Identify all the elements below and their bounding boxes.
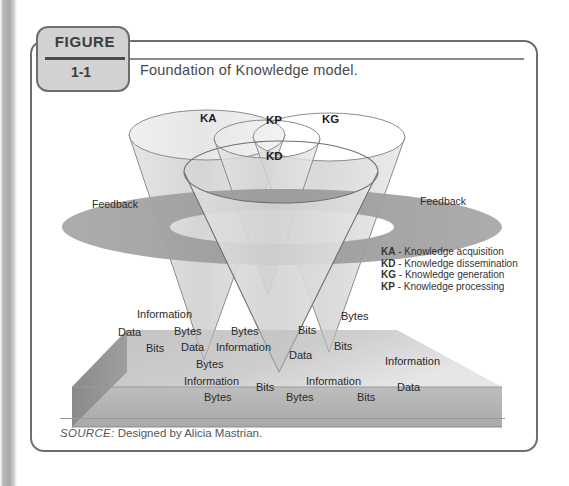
legend-item-separator: -	[395, 246, 404, 257]
legend-item: KD - Knowledge dissemination	[381, 258, 518, 270]
slab-word: Bits	[334, 340, 352, 352]
legend-item-code: KA	[381, 246, 395, 257]
legend-item-separator: -	[395, 281, 404, 292]
slab-word: Information	[184, 375, 239, 387]
foundation-of-knowledge-diagram	[32, 42, 532, 446]
legend: KA - Knowledge acquisitionKD - Knowledge…	[381, 246, 518, 292]
source-label: SOURCE:	[60, 427, 115, 439]
slab-word: Bytes	[196, 358, 224, 370]
slab-word: Data	[181, 341, 204, 353]
page-scan-edge	[0, 0, 17, 486]
legend-item: KG - Knowledge generation	[381, 269, 518, 281]
slab-word: Information	[306, 375, 361, 387]
legend-item-separator: -	[395, 258, 404, 269]
legend-item-code: KG	[381, 269, 396, 280]
slab-word: Information	[216, 341, 271, 353]
figure-tab-rule	[45, 57, 125, 60]
legend-item: KA - Knowledge acquisition	[381, 246, 518, 258]
feedback-label-left: Feedback	[92, 198, 138, 210]
source-divider	[60, 418, 505, 419]
slab-word: Data	[397, 381, 420, 393]
cone-label-kd: KD	[266, 150, 283, 162]
legend-item-code: KD	[381, 258, 395, 269]
legend-item-separator: -	[396, 269, 405, 280]
slab-word: Bits	[298, 324, 316, 336]
slab-word: Bytes	[174, 325, 202, 337]
slab-word: Data	[118, 326, 141, 338]
source-text: Designed by Alicia Mastrian.	[118, 427, 262, 439]
legend-item-text: Knowledge processing	[404, 281, 505, 292]
slab-word: Bytes	[231, 325, 259, 337]
slab-word: Data	[289, 349, 312, 361]
slab-word: Bits	[357, 391, 375, 403]
legend-item: KP - Knowledge processing	[381, 281, 518, 293]
source-line: SOURCE: Designed by Alicia Mastrian.	[60, 427, 262, 439]
cone-label-kg: KG	[322, 113, 339, 125]
feedback-label-right: Feedback	[420, 195, 466, 207]
legend-item-text: Knowledge acquisition	[404, 246, 504, 257]
figure-number: 1-1	[38, 64, 124, 80]
slab-word: Bits	[256, 381, 274, 393]
figure-number-tab: FIGURE 1-1	[36, 26, 130, 92]
legend-item-text: Knowledge generation	[405, 269, 505, 280]
cone-label-kp: KP	[266, 114, 282, 126]
legend-item-text: Knowledge dissemination	[404, 258, 517, 269]
slab-word: Information	[137, 308, 192, 320]
page-margin	[17, 0, 25, 486]
legend-item-code: KP	[381, 281, 395, 292]
slab-word: Information	[385, 355, 440, 367]
slab-word: Bytes	[286, 391, 314, 403]
cone-label-ka: KA	[200, 112, 217, 124]
slab-word: Bytes	[204, 391, 232, 403]
figure-tab-label: FIGURE	[38, 33, 132, 50]
slab-word: Bits	[146, 342, 164, 354]
slab-word: Bytes	[341, 310, 369, 322]
